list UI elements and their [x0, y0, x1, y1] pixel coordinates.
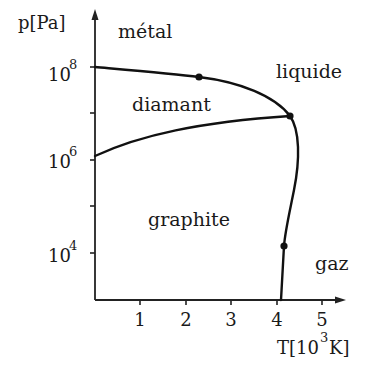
phase-diagram: p[Pa] 10 8 10 6 10 4 1 2 3 4 5 T[10 3 K]…	[0, 0, 382, 379]
y-axis-arrow-icon	[92, 9, 99, 20]
y-tick-label-1e8: 10 8	[48, 57, 77, 85]
region-label-liquid: liquide	[276, 60, 342, 82]
triple-point-graphite-liquid-gas	[280, 242, 287, 249]
y-tick-label-1e4: 10 4	[48, 238, 77, 266]
x-axis-arrow-icon	[335, 297, 346, 304]
curve-graphite-gas	[281, 246, 284, 300]
svg-text:10: 10	[48, 245, 71, 266]
svg-text:4: 4	[69, 238, 77, 253]
triple-point-diamond-graphite-liquid	[286, 112, 293, 119]
region-label-diamond: diamant	[132, 93, 211, 115]
point-metal-diamond-liquid	[195, 73, 202, 80]
svg-text:T[10: T[10	[277, 337, 319, 358]
x-tick-label-2: 2	[180, 309, 191, 330]
svg-text:6: 6	[69, 144, 77, 159]
x-tick-label-5: 5	[316, 309, 327, 330]
x-tick-label-1: 1	[134, 309, 145, 330]
svg-text:3: 3	[320, 330, 328, 345]
x-tick-label-3: 3	[225, 309, 236, 330]
region-label-metal: métal	[118, 20, 172, 42]
svg-text:K]: K]	[329, 337, 349, 358]
svg-text:8: 8	[69, 57, 77, 72]
x-tick-label-4: 4	[271, 309, 282, 330]
y-axis-label: p[Pa]	[18, 12, 66, 33]
y-tick-label-1e6: 10 6	[48, 144, 77, 172]
region-label-gas: gaz	[315, 252, 349, 274]
svg-text:10: 10	[48, 151, 71, 172]
axes	[90, 9, 346, 305]
svg-text:10: 10	[48, 64, 71, 85]
region-label-graphite: graphite	[148, 208, 230, 230]
curve-graphite-liquid	[284, 116, 298, 246]
x-axis-label: T[10 3 K]	[277, 330, 349, 358]
curve-diamond-graphite	[95, 116, 290, 156]
